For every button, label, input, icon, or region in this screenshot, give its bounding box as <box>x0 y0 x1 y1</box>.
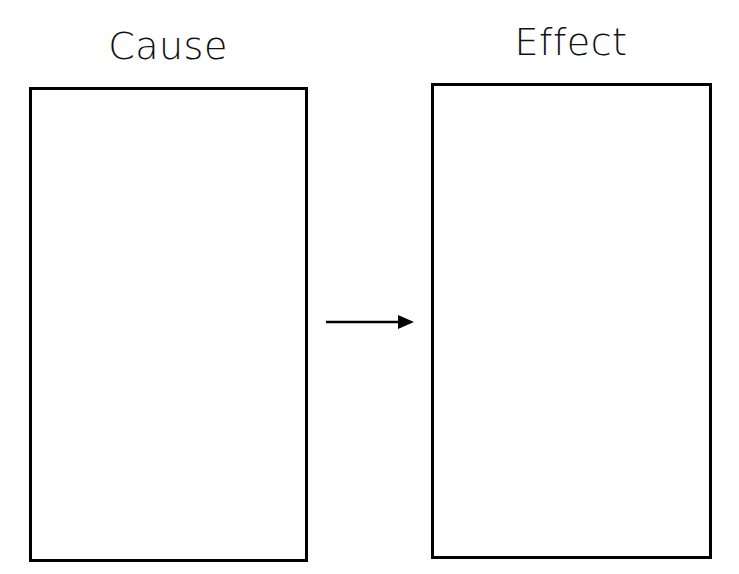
cause-title: Cause <box>29 24 307 68</box>
cause-box[interactable] <box>29 87 308 562</box>
effect-box[interactable] <box>431 83 712 559</box>
arrow-right-icon <box>324 312 416 332</box>
effect-title: Effect <box>431 20 711 64</box>
